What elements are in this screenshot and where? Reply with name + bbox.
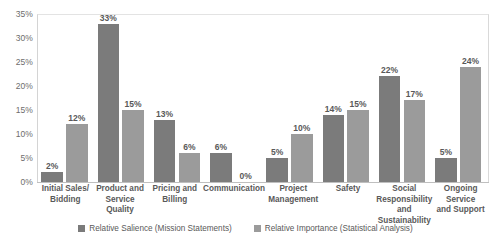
bar-group: 22%17%	[376, 14, 432, 182]
bar-value-label: 17%	[406, 89, 423, 100]
legend-item[interactable]: Relative Importance (Statistical Analysi…	[254, 224, 413, 233]
bar[interactable]: 12%	[66, 124, 87, 182]
y-axis-tick-label: 20%	[0, 82, 33, 91]
bar-groups: 2%12%33%15%13%6%6%0%5%10%14%15%22%17%5%2…	[38, 14, 488, 182]
bar[interactable]: 14%	[323, 115, 344, 182]
bar-value-label: 10%	[293, 123, 310, 134]
bar-value-label: 2%	[46, 161, 58, 172]
bar[interactable]: 6%	[179, 153, 200, 182]
x-axis-category-label: Safety	[321, 184, 376, 226]
x-axis-category-label-line: Safety	[322, 184, 375, 195]
y-axis-tick-label: 35%	[0, 10, 33, 19]
x-axis-category-label-line: Project	[267, 184, 320, 195]
bar-value-label: 6%	[215, 142, 227, 153]
x-axis-category-label-line: and Support	[434, 205, 487, 216]
x-axis-category-label-line: Bidding	[39, 195, 92, 206]
bar-value-label: 13%	[156, 109, 173, 120]
bar[interactable]: 24%	[460, 67, 481, 182]
x-axis-category-label: Ongoing Serviceand Support	[433, 184, 488, 226]
bar-group: 5%24%	[432, 14, 488, 182]
bar-group: 33%15%	[94, 14, 150, 182]
x-axis-category-labels: Initial Sales/BiddingProduct andService …	[38, 184, 488, 226]
bar-group: 13%6%	[151, 14, 207, 182]
bar-group: 2%12%	[38, 14, 94, 182]
x-axis-category-label: Pricing andBilling	[147, 184, 202, 226]
x-axis-category-label: Initial Sales/Bidding	[38, 184, 93, 226]
bar[interactable]: 5%	[266, 158, 287, 182]
bar-group: 6%0%	[207, 14, 263, 182]
bar[interactable]: 6%	[210, 153, 231, 182]
x-axis-category-label-line: Product and	[94, 184, 147, 195]
bar-value-label: 12%	[68, 113, 85, 124]
legend-swatch-icon	[254, 225, 261, 232]
bar-value-label: 6%	[183, 142, 195, 153]
grouped-bar-chart: 35%30%25%20%15%10%5%0% 2%12%33%15%13%6%6…	[0, 0, 491, 242]
bar-value-label: 15%	[350, 99, 367, 110]
y-axis-tick-label: 0%	[0, 178, 33, 187]
x-axis-category-label-line: Communication	[203, 184, 265, 195]
x-axis-category-label: Communication	[202, 184, 266, 226]
bar-value-label: 15%	[125, 99, 142, 110]
x-axis-category-label-line: Initial Sales/	[39, 184, 92, 195]
bar-value-label: 0%	[239, 171, 251, 182]
bar-value-label: 24%	[462, 56, 479, 67]
bar-value-label: 5%	[440, 147, 452, 158]
x-axis-category-label-line: Pricing and	[148, 184, 201, 195]
bar[interactable]: 2%	[41, 172, 62, 182]
bar-value-label: 14%	[325, 104, 342, 115]
x-axis-category-label-line: Social	[376, 184, 432, 195]
x-axis-category-label: Product andService Quality	[93, 184, 148, 226]
y-axis-tick-label: 5%	[0, 154, 33, 163]
x-axis-line	[37, 182, 489, 183]
y-axis-tick-label: 15%	[0, 106, 33, 115]
y-axis-tick-label: 10%	[0, 130, 33, 139]
x-axis-category-label-line: Service Quality	[94, 195, 147, 216]
bar[interactable]: 13%	[154, 120, 175, 182]
bar[interactable]: 17%	[404, 100, 425, 182]
bar-group: 5%10%	[263, 14, 319, 182]
chart-legend: Relative Salience (Mission Statements)Re…	[0, 224, 491, 233]
x-axis-category-label-line: Ongoing Service	[434, 184, 487, 205]
bar[interactable]: 15%	[347, 110, 368, 182]
legend-label: Relative Importance (Statistical Analysi…	[265, 224, 413, 233]
x-axis-category-label-line: Billing	[148, 195, 201, 206]
bar-value-label: 33%	[100, 13, 117, 24]
bar-value-label: 22%	[381, 65, 398, 76]
bar-value-label: 5%	[271, 147, 283, 158]
bar[interactable]: 5%	[435, 158, 456, 182]
bar[interactable]: 15%	[122, 110, 143, 182]
y-axis-tick-label: 30%	[0, 34, 33, 43]
bar-group: 14%15%	[319, 14, 375, 182]
x-axis-category-label: ProjectManagement	[266, 184, 321, 226]
x-axis-category-label-line: Management	[267, 195, 320, 206]
legend-label: Relative Salience (Mission Statements)	[89, 224, 231, 233]
y-axis-labels: 35%30%25%20%15%10%5%0%	[0, 0, 33, 196]
x-axis-category-label-line: Responsibility	[376, 195, 432, 206]
y-axis-tick-label: 25%	[0, 58, 33, 67]
bar[interactable]: 22%	[379, 76, 400, 182]
bar[interactable]: 33%	[98, 24, 119, 182]
bar[interactable]: 10%	[291, 134, 312, 182]
legend-item[interactable]: Relative Salience (Mission Statements)	[78, 224, 231, 233]
x-axis-category-label-line: and Sustainability	[376, 205, 432, 226]
x-axis-category-label: SocialResponsibilityand Sustainability	[375, 184, 433, 226]
legend-swatch-icon	[78, 225, 85, 232]
